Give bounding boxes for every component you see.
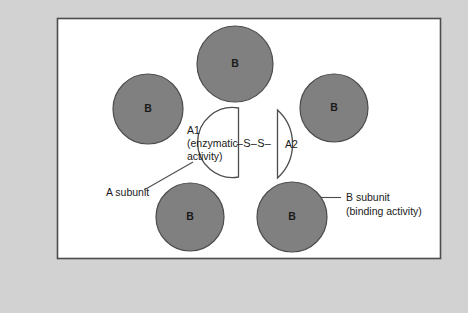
b-subunit-bottom-left: B — [156, 183, 224, 251]
b-subunit-label: B — [330, 101, 338, 113]
diagram-canvas: B B B B B A1 (enzymatic — [0, 0, 468, 313]
a2-domain-label: A2 — [285, 138, 298, 150]
b-subunit-callout-label-line2: (binding activity) — [346, 205, 422, 217]
a1-domain-label-line1: A1 — [187, 124, 200, 136]
b-subunit-top: B — [197, 26, 273, 102]
b-subunit-label: B — [288, 210, 296, 222]
figure-root: B B B B B A1 (enzymatic — [0, 0, 468, 313]
b-subunit-bottom-right: B — [257, 182, 327, 252]
b-subunit-label: B — [186, 210, 194, 222]
b-subunit-right: B — [300, 74, 368, 142]
a1-domain-label-line2: (enzymatic — [187, 137, 238, 149]
b-subunit-callout-label-line1: B subunit — [346, 191, 390, 203]
disulfide-bond-label: –S–S– — [237, 137, 272, 149]
b-subunit-label: B — [144, 102, 152, 114]
b-subunit-left: B — [113, 74, 183, 144]
a1-domain-label-line3: activity) — [187, 150, 223, 162]
b-subunit-label: B — [231, 57, 239, 69]
a-subunit-callout-label: A subunit — [106, 186, 149, 198]
